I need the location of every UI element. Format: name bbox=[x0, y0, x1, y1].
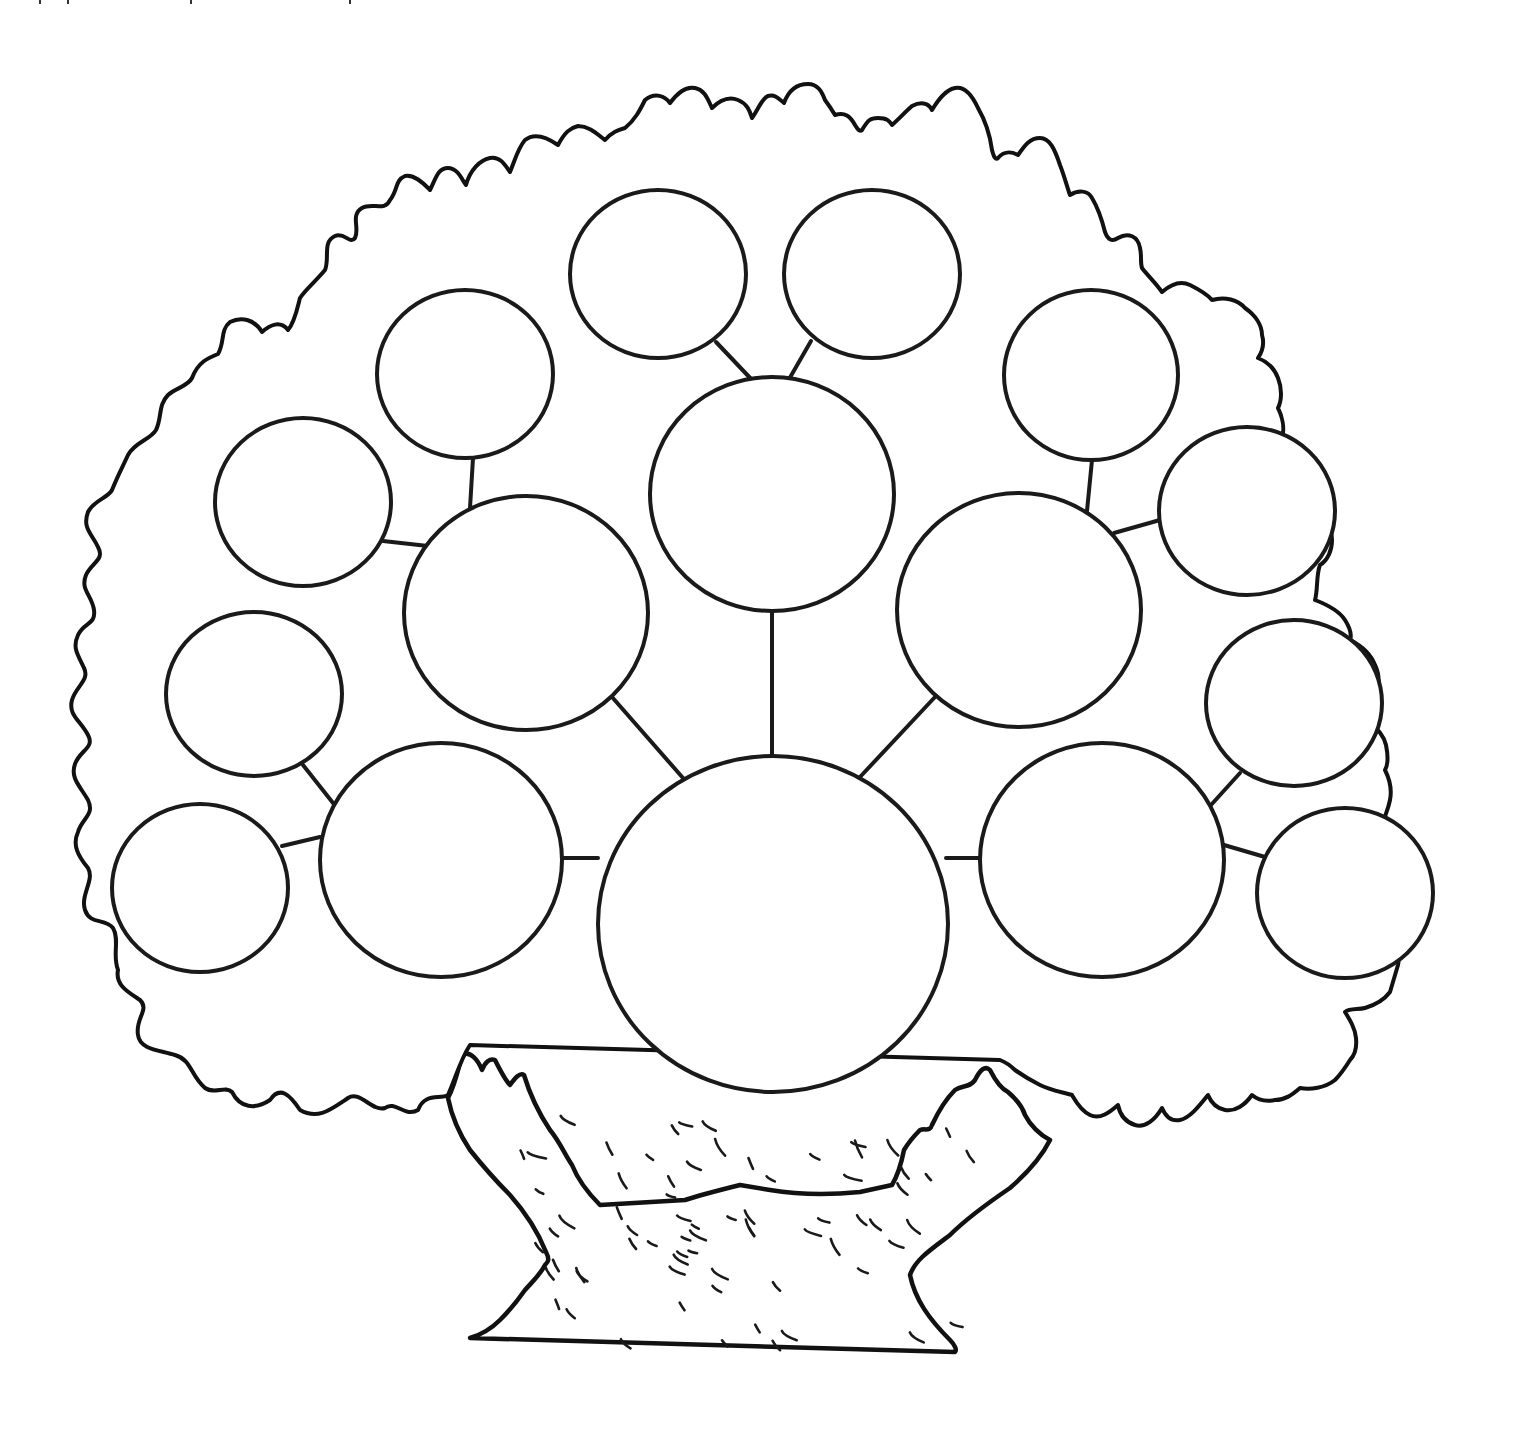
bark-mark bbox=[679, 1122, 692, 1126]
bark-mark bbox=[851, 1142, 865, 1147]
name-circle[interactable] bbox=[112, 804, 288, 972]
bark-mark bbox=[715, 1139, 725, 1156]
bark-mark bbox=[749, 1158, 754, 1169]
bark-mark bbox=[855, 1141, 862, 1158]
bark-mark bbox=[844, 1175, 861, 1181]
bark-mark bbox=[810, 1154, 819, 1160]
name-circle[interactable] bbox=[1206, 620, 1382, 786]
bark-mark bbox=[668, 1176, 674, 1186]
bark-mark bbox=[951, 1323, 963, 1327]
name-circle[interactable] bbox=[980, 743, 1224, 977]
bark-mark bbox=[619, 1173, 627, 1188]
circle-gp-top-left[interactable] bbox=[377, 290, 553, 458]
bark-mark bbox=[667, 1194, 675, 1197]
name-circle[interactable] bbox=[1004, 290, 1178, 460]
circle-gp-top-center-right[interactable] bbox=[784, 190, 960, 358]
bark-mark bbox=[887, 1140, 898, 1155]
circle-gp-top-right[interactable] bbox=[1004, 290, 1178, 460]
circle-gp-upper-left[interactable] bbox=[215, 418, 391, 586]
name-circle[interactable] bbox=[320, 743, 562, 977]
bark-mark bbox=[687, 1162, 701, 1170]
name-circle[interactable] bbox=[1257, 808, 1433, 978]
top-edge-marks bbox=[40, 0, 350, 4]
name-circle[interactable] bbox=[650, 377, 894, 611]
bark-mark bbox=[703, 1121, 716, 1130]
circle-gp-upper-right[interactable] bbox=[1159, 427, 1335, 595]
bark-mark bbox=[647, 1155, 654, 1160]
circle-parent-mid-right[interactable] bbox=[897, 493, 1141, 727]
tree-trunk bbox=[448, 1054, 1050, 1352]
name-circle[interactable] bbox=[377, 290, 553, 458]
name-circle[interactable] bbox=[404, 496, 648, 730]
bark-mark bbox=[767, 1176, 775, 1181]
circle-root[interactable] bbox=[598, 756, 948, 1092]
circle-gp-bottom-left[interactable] bbox=[112, 804, 288, 972]
family-tree-diagram bbox=[0, 0, 1533, 1434]
circle-gp-lower-left[interactable] bbox=[166, 612, 342, 776]
name-circle[interactable] bbox=[570, 190, 746, 358]
circle-gp-bottom-right[interactable] bbox=[1257, 808, 1433, 978]
circle-parent-mid-left[interactable] bbox=[404, 496, 648, 730]
circle-gp-lower-right[interactable] bbox=[1206, 620, 1382, 786]
circle-parent-right[interactable] bbox=[980, 743, 1224, 977]
bark-mark bbox=[672, 1125, 678, 1134]
name-circle[interactable] bbox=[166, 612, 342, 776]
bark-mark bbox=[561, 1116, 575, 1125]
name-circle[interactable] bbox=[784, 190, 960, 358]
bark-mark bbox=[607, 1143, 613, 1155]
circle-parent-left[interactable] bbox=[320, 743, 562, 977]
circle-gp-top-center-left[interactable] bbox=[570, 190, 746, 358]
name-circle[interactable] bbox=[897, 493, 1141, 727]
circle-parent-top[interactable] bbox=[650, 377, 894, 611]
name-circle[interactable] bbox=[215, 418, 391, 586]
name-circle[interactable] bbox=[598, 756, 948, 1092]
name-circle[interactable] bbox=[1159, 427, 1335, 595]
